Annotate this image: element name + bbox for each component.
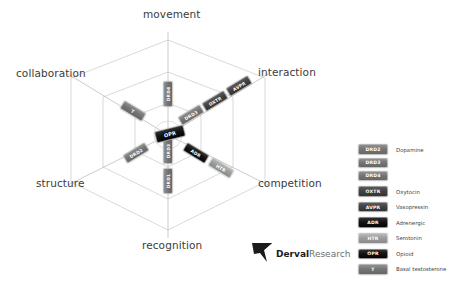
- legend-label-opioid: Opioid: [396, 251, 413, 257]
- derval-research-logo: DervalResearch: [250, 240, 345, 266]
- legend-chip-drd4: DRD4: [358, 171, 388, 182]
- legend-chip-avpr: AVPR: [358, 202, 388, 213]
- legend: DRD2 Dopamine DRD3 DRD4 OXTR Oxytocin AV…: [358, 143, 456, 276]
- legend-label-vasopressin: Vasopressin: [396, 204, 428, 210]
- legend-item-oxtr[interactable]: OXTR Oxytocin: [358, 185, 456, 198]
- legend-chip-label: AVPR: [366, 205, 381, 210]
- legend-chip-label: DRD4: [365, 173, 380, 178]
- legend-label-oxytocin: Oxytocin: [396, 189, 420, 195]
- logo-brand-light: Research: [309, 249, 350, 259]
- axis-label-competition: competition: [258, 177, 322, 189]
- axis-label-movement: movement: [143, 8, 201, 20]
- axis-label-interaction: interaction: [258, 66, 316, 78]
- axis-label-collaboration: collaboration: [16, 67, 86, 79]
- legend-chip-t: T: [358, 264, 388, 275]
- marker-chip-drd3-recognition[interactable]: DRD3: [163, 138, 173, 164]
- marker-chip-drd4[interactable]: DRD4: [163, 81, 173, 107]
- logo-wordmark: DervalResearch: [276, 249, 350, 259]
- legend-chip-label: DRD2: [365, 147, 380, 152]
- legend-chip-adr: ADR: [358, 217, 388, 228]
- legend-item-drd3[interactable]: DRD3: [358, 156, 456, 169]
- axis-label-structure: structure: [36, 177, 85, 189]
- legend-item-drd2[interactable]: DRD2 Dopamine: [358, 143, 456, 156]
- legend-chip-label: OXTR: [366, 189, 381, 194]
- legend-chip-drd2: DRD2: [358, 144, 388, 155]
- legend-chip-label: DRD3: [365, 160, 380, 165]
- legend-chip-drd3: DRD3: [358, 158, 388, 169]
- spoke-collaboration: [68, 74, 168, 135]
- legend-chip-label: OPR: [367, 251, 378, 256]
- legend-chip-label: T: [371, 267, 374, 272]
- legend-item-adr[interactable]: ADR Adrenergic: [358, 216, 456, 229]
- marker-chip-label: T: [130, 108, 135, 114]
- legend-label-dopamine: Dopamine: [396, 147, 424, 153]
- legend-label-adrenergic: Adrenergic: [396, 220, 425, 226]
- legend-chip-label: HTR: [367, 236, 378, 241]
- legend-item-drd4[interactable]: DRD4: [358, 169, 456, 182]
- marker-chip-label: OPR: [163, 130, 176, 139]
- legend-item-opr[interactable]: OPR Opioid: [358, 247, 456, 260]
- legend-chip-label: ADR: [367, 220, 379, 225]
- legend-item-t[interactable]: T Basal testosterone: [358, 263, 456, 276]
- marker-chip-label: HTR: [215, 163, 227, 173]
- legend-item-htr[interactable]: HTR Serotonin: [358, 232, 456, 245]
- logo-brand-bold: Derval: [276, 249, 309, 259]
- legend-label-serotonin: Serotonin: [396, 235, 422, 241]
- legend-chip-oxtr: OXTR: [358, 186, 388, 197]
- legend-chip-opr: OPR: [358, 249, 388, 260]
- legend-item-avpr[interactable]: AVPR Vasopressin: [358, 201, 456, 214]
- axis-label-recognition: recognition: [142, 239, 202, 251]
- legend-chip-htr: HTR: [358, 233, 388, 244]
- legend-label-basal-testosterone: Basal testosterone: [396, 266, 446, 272]
- marker-chip-label: DRD1: [166, 174, 171, 189]
- marker-chip-drd1[interactable]: DRD1: [163, 168, 173, 194]
- marker-chip-label: DRD4: [166, 87, 171, 102]
- marker-chip-label: ADR: [190, 148, 202, 158]
- marker-chip-label: DRD3: [166, 144, 171, 159]
